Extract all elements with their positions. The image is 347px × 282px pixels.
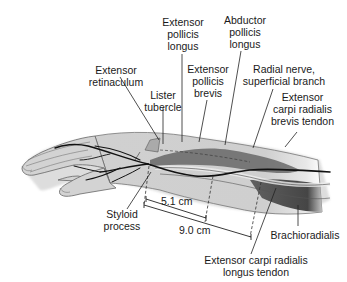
measurement-long-label: 9.0 cm <box>179 224 211 236</box>
label-radial-nerve: Radial nerve, superficial branch <box>239 63 329 87</box>
label-extensor-retinaculum: Extensor retinaculum <box>84 64 148 88</box>
label-ecrb-tendon: Extensor carpi radialis brevis tendon <box>265 91 340 127</box>
label-lister-tubercle: Lister tubercle <box>140 89 186 113</box>
label-extensor-pollicis-brevis: Extensor pollicis brevis <box>186 63 230 99</box>
label-brachioradialis: Brachioradialis <box>265 229 345 241</box>
label-abductor-pollicis-longus: Abductor pollicis longus <box>220 14 270 50</box>
label-extensor-pollicis-longus: Extensor pollicis longus <box>160 16 206 52</box>
label-ecrl-tendon: Extensor carpi radialis longus tendon <box>196 254 316 278</box>
measurement-short-label: 5.1 cm <box>161 195 193 207</box>
label-styloid-process: Styloid process <box>100 208 144 232</box>
